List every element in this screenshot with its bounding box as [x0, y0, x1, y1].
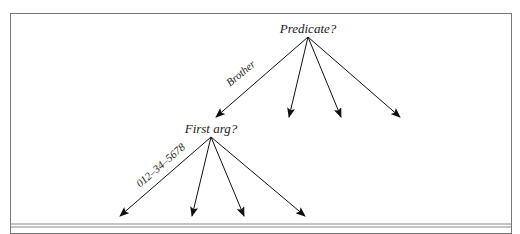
- edge-arrow: [211, 137, 305, 216]
- edge-arrow: [120, 137, 211, 216]
- brother-edge-label: Brother: [224, 57, 258, 88]
- edge-arrow: [308, 37, 341, 117]
- edge-arrow: [289, 37, 308, 117]
- edge-arrow: [192, 137, 211, 216]
- decision-tree-diagram: Predicate? First arg? Brother 012–34–567…: [0, 0, 520, 234]
- edge-arrow: [308, 37, 400, 117]
- frame-border: [11, 14, 512, 234]
- edge-arrow: [211, 137, 244, 216]
- first-arg-node-label: First arg?: [184, 121, 238, 136]
- predicate-node-label: Predicate?: [279, 21, 337, 36]
